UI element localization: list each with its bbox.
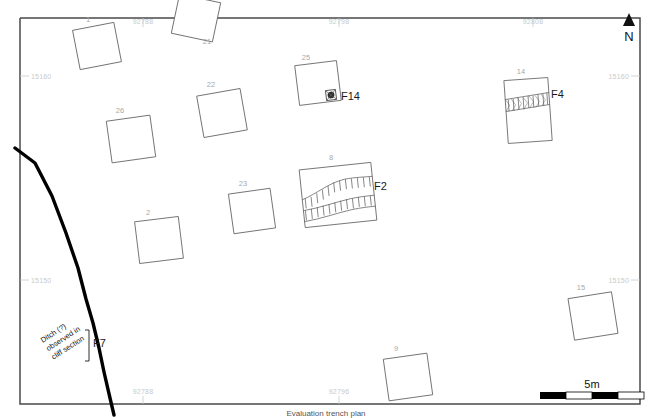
- scale-bar-segment-4: [618, 392, 644, 399]
- grid-label-left-2: 15150: [31, 277, 51, 284]
- trench-23[interactable]: 23: [228, 179, 275, 234]
- trench-label-14: 14: [517, 67, 525, 76]
- grid-label-top-2: 92798: [329, 18, 349, 25]
- trench-label-25: 25: [302, 53, 310, 62]
- grid-label-top-1: 92788: [133, 18, 153, 25]
- grid-label-left-1: 15160: [31, 73, 51, 80]
- trench-1[interactable]: 1: [73, 15, 122, 70]
- feature-label-f4: F4: [551, 88, 564, 100]
- trench-26[interactable]: 26: [106, 106, 155, 163]
- grid-label-bottom-2: 92796: [329, 388, 349, 395]
- scale-bar-segment-1: [540, 392, 566, 399]
- trench-22[interactable]: 22: [197, 80, 248, 138]
- trench-label-23: 23: [239, 179, 247, 188]
- trench-label-21: 21: [203, 37, 211, 46]
- ditch-observed-note: Ditch (?) observed in cliff section: [39, 316, 87, 361]
- trench-2[interactable]: 2: [135, 208, 184, 264]
- trench-label-22: 22: [207, 80, 215, 89]
- north-arrow-triangle-icon: [623, 13, 635, 26]
- trench-15[interactable]: 15: [568, 283, 618, 340]
- figure-caption: Evaluation trench plan: [286, 409, 365, 418]
- north-arrow-label: N: [624, 29, 633, 44]
- trench-label-8: 8: [329, 153, 333, 162]
- trench-9[interactable]: 9: [383, 344, 432, 401]
- site-plan-figure: 92788 92798 92808 15160 15150 15160 1515…: [0, 0, 653, 418]
- feature-label-f14: F14: [341, 90, 360, 102]
- grid-label-group-right: 15160 15150: [609, 73, 629, 284]
- scale-bar-label: 5m: [584, 378, 599, 390]
- scale-bar-segment-2: [566, 392, 592, 399]
- feature-label-f7: F7: [93, 337, 106, 349]
- grid-label-right-1: 15160: [609, 73, 629, 80]
- trench-label-2: 2: [146, 208, 150, 217]
- grid-label-group-bottom: 92788 92796: [133, 388, 349, 395]
- cliff-edge-line: [15, 148, 114, 415]
- grid-label-top-3: 92808: [523, 18, 543, 25]
- trench-group: 1 21 25 14 26 22: [73, 0, 618, 401]
- scale-bar: 5m: [540, 378, 644, 399]
- feature-f7-bracket[interactable]: [85, 330, 89, 361]
- scale-bar-segment-3: [592, 392, 618, 399]
- trench-label-1: 1: [86, 15, 90, 24]
- feature-label-f2: F2: [374, 180, 387, 192]
- trench-label-15: 15: [577, 283, 585, 292]
- plan-canvas: 92788 92798 92808 15160 15150 15160 1515…: [0, 0, 653, 418]
- feature-f14-symbol[interactable]: [325, 89, 336, 100]
- grid-label-bottom-1: 92788: [133, 388, 153, 395]
- trench-label-26: 26: [116, 106, 124, 115]
- trench-21[interactable]: 21: [171, 0, 220, 46]
- grid-label-right-2: 15150: [609, 277, 629, 284]
- trench-8[interactable]: 8: [299, 153, 377, 228]
- trench-label-9: 9: [394, 344, 398, 353]
